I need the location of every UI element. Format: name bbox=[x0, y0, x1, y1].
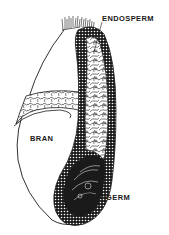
wheat-kernel-diagram: ENDOSPERM BRAN GERM bbox=[0, 0, 169, 235]
bran-layer bbox=[16, 91, 86, 124]
germ-label: GERM bbox=[106, 194, 130, 202]
endosperm-label: ENDOSPERM bbox=[102, 15, 154, 23]
bran-label: BRAN bbox=[30, 135, 53, 143]
kernel-illustration bbox=[0, 0, 169, 235]
